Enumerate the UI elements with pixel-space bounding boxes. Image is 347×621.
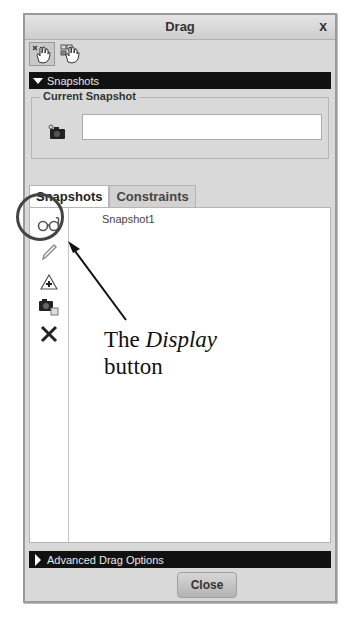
annotation-arrow bbox=[0, 0, 347, 621]
annotation-line2: button bbox=[104, 354, 163, 379]
annotation-emphasis: Display bbox=[146, 327, 218, 352]
annotation-prefix: The bbox=[104, 327, 146, 352]
annotation-label: The Display button bbox=[104, 326, 217, 380]
